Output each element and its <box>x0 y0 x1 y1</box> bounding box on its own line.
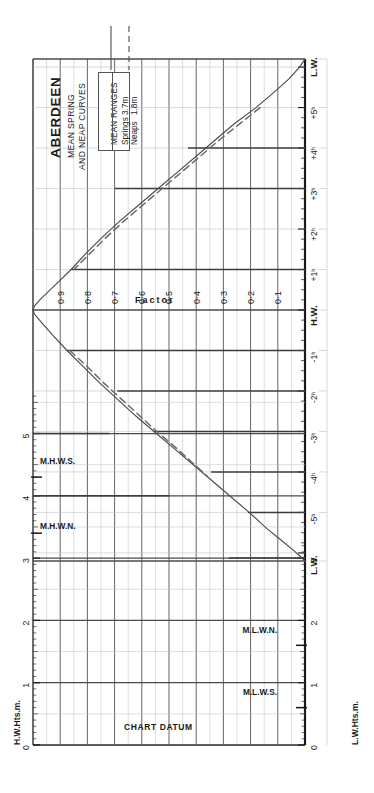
time-tick-label: -4ʰ <box>309 473 319 484</box>
subtitle-line-2: AND NEAP CURVES <box>77 83 87 170</box>
time-tick-label: +4ʰ <box>309 147 319 160</box>
time-tick-label: L.W. <box>308 57 319 77</box>
chart-datum-label: CHART DATUM <box>124 722 193 732</box>
mhws-label: M.H.W.S. <box>40 456 75 466</box>
right-height-tick-label: 0 <box>309 745 319 750</box>
left-height-tick-label: 3 <box>21 558 31 563</box>
legend-sample-lines <box>98 24 138 74</box>
curve-neaps-falling <box>70 351 207 477</box>
right-height-tick-label: 3 <box>309 558 319 563</box>
legend-row-springs-value: 3.7m <box>121 97 130 115</box>
time-tick-label: +1ʰ <box>309 268 319 281</box>
port-title: ABERDEEN <box>48 77 63 158</box>
factor-tick-label: 0·4 <box>192 291 202 304</box>
factor-tick-label: 0·7 <box>110 291 120 304</box>
factor-axis-label: Factor <box>135 295 175 305</box>
factor-tick-label: 0·2 <box>246 291 256 304</box>
legend-divider <box>112 73 113 150</box>
left-height-tick-label: 2 <box>21 620 31 625</box>
right-height-axis-label: L.W.Hts.m. <box>350 701 360 745</box>
time-tick-label: +2ʰ <box>309 228 319 241</box>
factor-tick-label: 0·3 <box>219 291 229 304</box>
time-tick-label: -2ʰ <box>309 392 319 403</box>
left-height-tick-label: 0 <box>21 745 31 750</box>
subtitle-line-1: MEAN SPRING <box>66 94 76 158</box>
factor-tick-label: 0·9 <box>56 291 66 304</box>
mhwn-label: M.H.W.N. <box>40 521 76 531</box>
legend-row-neaps-label: Neaps <box>130 121 139 145</box>
factor-tick-label: 0·8 <box>83 291 93 304</box>
time-tick-label: H.W. <box>308 305 319 326</box>
legend: MEAN RANGES Springs 3.7m Neaps 1.8m <box>98 72 130 151</box>
time-tick-label: -1ʰ <box>309 352 319 363</box>
left-height-tick-label: 5 <box>21 434 31 439</box>
left-height-tick-label: 4 <box>21 496 31 501</box>
left-height-axis-label: H.W.Hts.m. <box>12 700 22 745</box>
legend-row-springs-label: Springs <box>121 117 130 145</box>
mlwn-label: M.L.W.N. <box>242 625 277 635</box>
time-tick-label: +3ʰ <box>309 187 319 200</box>
time-tick-label: -3ʰ <box>309 433 319 444</box>
right-height-tick-label: 2 <box>309 620 319 625</box>
time-tick-label: +5ʰ <box>309 106 319 119</box>
right-height-tick-label: 1 <box>309 683 319 688</box>
legend-row-neaps-value: 1.8m <box>130 97 139 115</box>
time-tick-label: -5ʰ <box>309 513 319 524</box>
factor-tick-label: 0·1 <box>273 291 283 304</box>
left-height-tick-label: 1 <box>21 683 31 688</box>
mlws-label: M.L.W.S. <box>243 687 277 697</box>
